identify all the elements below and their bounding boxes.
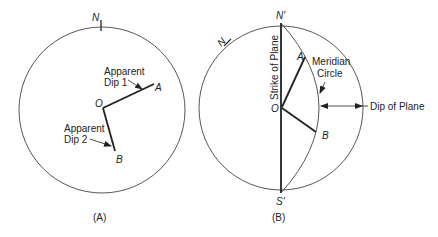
line-ob <box>103 108 115 151</box>
strike-of-plane-label: Strike of Plane <box>269 35 280 100</box>
north-prime-label: N' <box>276 10 286 21</box>
apparent-dip-2-arrow <box>90 139 111 146</box>
caption-a: (A) <box>93 212 106 223</box>
apparent-dip-2-label: Apparent <box>64 123 105 134</box>
meridian-circle-label: Meridian <box>312 56 350 67</box>
stereonet-diagram: N O A B Apparent Dip 1 Apparent Dip 2 (A… <box>0 0 438 237</box>
dip-of-plane-label: Dip of Plane <box>370 101 425 112</box>
point-b-a: B <box>116 154 123 165</box>
primitive-circle-a <box>19 27 185 193</box>
north-label-a: N <box>92 12 100 23</box>
panel-b: N N' S' O A B Strike of Plane Meridian C… <box>199 10 425 223</box>
apparent-dip-1-label: Apparent <box>104 66 145 77</box>
point-a-a: A <box>154 82 162 93</box>
point-a-b: A <box>296 51 304 62</box>
meridian-arrow <box>320 82 325 93</box>
apparent-dip-1-label-2: Dip 1 <box>104 77 128 88</box>
point-o-a: O <box>95 98 103 109</box>
apparent-dip-2-label-2: Dip 2 <box>64 134 88 145</box>
line-ob-b <box>282 108 316 132</box>
caption-b: (B) <box>272 212 285 223</box>
point-b-b: B <box>322 130 329 141</box>
panel-a: N O A B Apparent Dip 1 Apparent Dip 2 (A… <box>19 12 185 223</box>
meridian-circle-arc <box>281 23 319 193</box>
apparent-dip-1-arrow <box>128 80 142 89</box>
meridian-circle-label-2: Circle <box>317 68 343 79</box>
south-prime-label: S' <box>276 196 286 207</box>
point-o-b: O <box>271 103 279 114</box>
line-oa-b <box>282 57 305 107</box>
